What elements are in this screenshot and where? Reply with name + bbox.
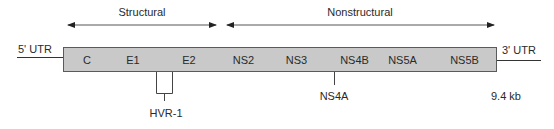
segment-ns2: NS2 [222,47,266,72]
segment-ns5a: NS5A [372,47,434,72]
ns4a-label: NS4A [320,90,349,102]
hvr1-bracket [157,72,173,101]
genome-size-label: 9.4 kb [491,90,521,102]
structural-label: Structural [118,6,165,18]
segment-ns3: NS3 [265,47,329,72]
utr3-label: 3' UTR [502,44,536,56]
segment-ns5b: NS5B [433,47,497,72]
utr5-label: 5' UTR [18,43,52,55]
segment-c: C [63,47,111,72]
segment-e2: E2 [156,47,223,72]
hvr1-label: HVR-1 [149,107,182,119]
segment-e1: E1 [110,47,157,72]
segment-ns4b: NS4B [337,47,373,72]
nonstructural-label: Nonstructural [327,6,392,18]
